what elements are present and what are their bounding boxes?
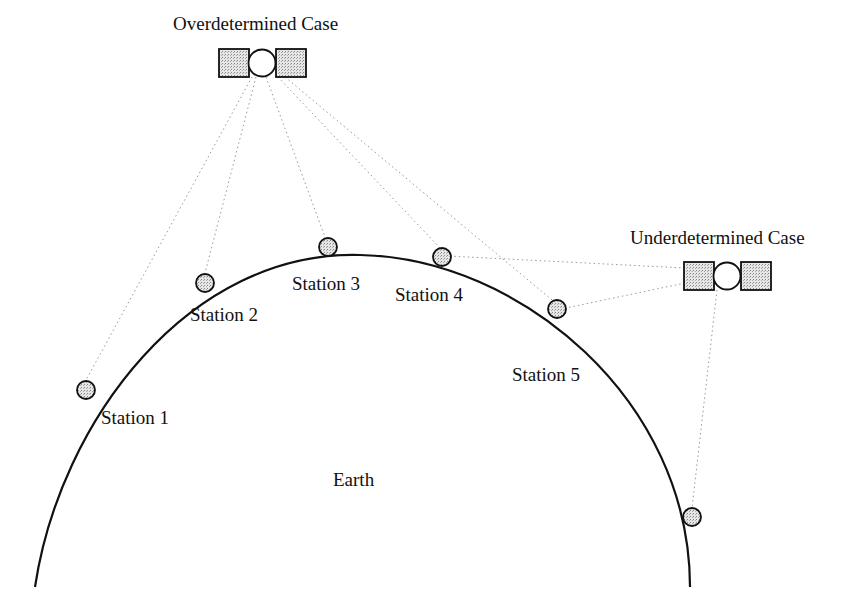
station-1-marker — [77, 381, 95, 399]
station-2-marker — [196, 274, 214, 292]
satellite-overdetermined — [219, 49, 306, 77]
station-3-label: Station 3 — [292, 274, 360, 293]
overdetermined-case-label: Overdetermined Case — [173, 14, 338, 33]
station-1-label: Station 1 — [101, 408, 169, 427]
station-5-marker — [548, 300, 566, 318]
underdetermined-case-label: Underdetermined Case — [630, 228, 805, 247]
earth-label: Earth — [333, 470, 374, 489]
ground-stations — [77, 238, 701, 526]
station-5-label: Station 5 — [512, 365, 580, 384]
underdetermined-rays — [448, 256, 717, 508]
station-6-marker — [683, 508, 701, 526]
satellite-underdetermined — [684, 262, 771, 290]
diagram-canvas: Overdetermined Case Underdetermined Case… — [0, 0, 860, 606]
station-4-marker — [433, 248, 451, 266]
station-3-marker — [319, 238, 337, 256]
station-4-label: Station 4 — [395, 285, 463, 304]
station-2-label: Station 2 — [190, 305, 258, 324]
overdetermined-rays — [86, 77, 552, 380]
